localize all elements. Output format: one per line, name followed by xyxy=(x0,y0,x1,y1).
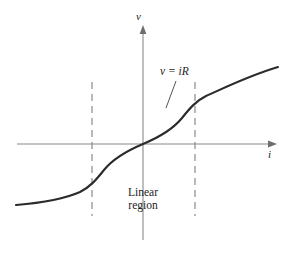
linear-region-label-line2: region xyxy=(109,199,177,212)
iv-curve xyxy=(16,67,278,205)
figure-canvas xyxy=(0,0,294,256)
equation-annotation: v = iR xyxy=(160,65,189,78)
linear-region-annotation: Linear region xyxy=(109,186,177,212)
linear-region-label-line1: Linear xyxy=(109,186,177,199)
horizontal-axis-arrowhead xyxy=(268,141,277,148)
iv-characteristic-figure: v i v = iR Linear region xyxy=(0,0,294,256)
vertical-axis-label: v xyxy=(136,10,141,22)
vertical-axis-arrowhead xyxy=(140,25,147,34)
equation-leader-line xyxy=(166,81,176,108)
horizontal-axis-label: i xyxy=(268,148,271,160)
